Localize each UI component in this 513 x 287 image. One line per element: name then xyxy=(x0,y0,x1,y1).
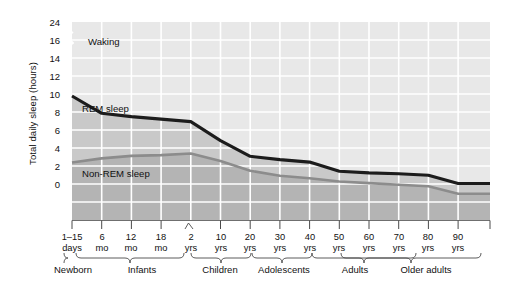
y-tick-10: 10 xyxy=(34,90,60,100)
x-tick-newborn: 1–15 days xyxy=(52,232,92,253)
y-tick-0: 0 xyxy=(34,180,60,190)
x-tick-60yrs: 60 yrs xyxy=(354,232,384,253)
x-tick-12mo: 12 mo xyxy=(116,232,146,253)
x-tick-20yrs: 20 yrs xyxy=(235,232,265,253)
group-adolescents: Adolescents xyxy=(244,264,324,275)
y-tick-6: 6 xyxy=(34,126,60,136)
x-tick-50yrs: 50 yrs xyxy=(324,232,354,253)
x-axis-ticks xyxy=(72,221,490,230)
x-tick-6mo: 6 mo xyxy=(87,232,117,253)
x-axis-break-icon xyxy=(185,223,193,229)
age-group-brackets xyxy=(64,253,481,263)
x-tick-80yrs: 80 yrs xyxy=(413,232,443,253)
x-tick-18mo: 18 mo xyxy=(146,232,176,253)
x-tick-40yrs: 40 yrs xyxy=(295,232,325,253)
annotation-waking: Waking xyxy=(88,36,120,47)
x-tick-70yrs: 70 yrs xyxy=(384,232,414,253)
y-tick-8: 8 xyxy=(34,108,60,118)
x-tick-90yrs: 90 yrs xyxy=(443,232,473,253)
x-tick-30yrs: 30 yrs xyxy=(265,232,295,253)
x-tick-10yrs: 10 yrs xyxy=(206,232,236,253)
y-tick-14: 14 xyxy=(34,54,60,64)
y-tick-24: 24 xyxy=(34,18,60,28)
y-axis-break-icon xyxy=(66,32,73,48)
x-tick-2yrs: 2 yrs xyxy=(176,232,206,253)
annotation-rem-sleep: REM sleep xyxy=(82,103,129,114)
group-newborn: Newborn xyxy=(42,264,104,275)
y-tick-4: 4 xyxy=(34,144,60,154)
y-tick-16: 16 xyxy=(34,36,60,46)
y-tick-12: 12 xyxy=(34,72,60,82)
group-infants: Infants xyxy=(107,264,177,275)
sleep-chart: Total daily sleep (hours) xyxy=(0,0,513,287)
annotation-non-rem-sleep: Non-REM sleep xyxy=(82,168,150,179)
y-tick-2: 2 xyxy=(34,162,60,172)
group-older-adults: Older adults xyxy=(376,264,476,275)
